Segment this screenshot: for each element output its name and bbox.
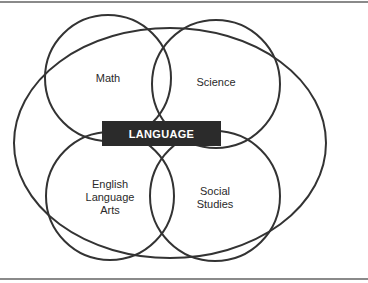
language-label: LANGUAGE <box>129 128 194 140</box>
math-label: Math <box>85 72 131 85</box>
social-studies-label: Social Studies <box>185 185 245 211</box>
language-center-box: LANGUAGE <box>102 121 221 146</box>
ela-label: English Language Arts <box>75 178 145 217</box>
science-label: Science <box>188 76 244 89</box>
